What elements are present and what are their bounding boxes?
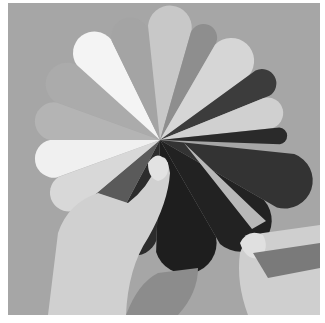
right-hand: [239, 225, 320, 315]
photo-frame: [0, 0, 325, 323]
photograph: [8, 3, 320, 315]
color-wheel-photo: [8, 3, 320, 315]
